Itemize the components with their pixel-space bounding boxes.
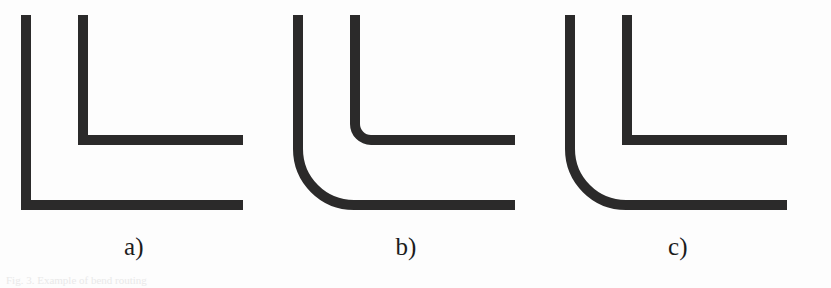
outer-l-stroke-c (570, 15, 787, 205)
panel-b-label: b) (272, 232, 540, 262)
panel-b-graphic (272, 0, 540, 232)
panel-b: b) (272, 0, 540, 288)
inner-l-stroke-b (355, 15, 515, 140)
figure-container: a) b) c) Fig. 3. Example of bend routing (0, 0, 831, 288)
panel-a-graphic (0, 0, 268, 232)
outer-l-stroke-b (298, 15, 515, 205)
figure-bottom-caption: Fig. 3. Example of bend routing (6, 274, 147, 287)
inner-l-stroke-c (627, 15, 787, 140)
outer-l-stroke-a (26, 15, 243, 205)
panel-c: c) (544, 0, 812, 288)
panel-c-graphic (544, 0, 812, 232)
inner-l-stroke-a (83, 15, 243, 140)
panel-c-label: c) (544, 232, 812, 262)
panel-a: a) (0, 0, 268, 288)
panel-a-label: a) (0, 232, 268, 262)
